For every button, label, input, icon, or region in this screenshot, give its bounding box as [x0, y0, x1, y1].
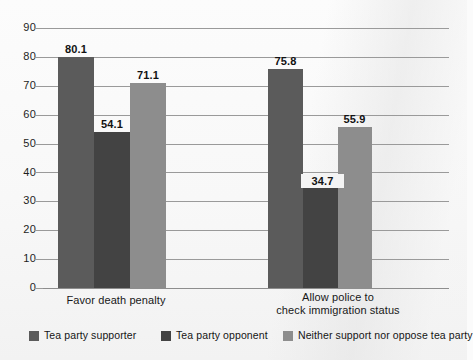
value-label-71-1: 71.1	[126, 69, 170, 81]
value-label-80-1: 80.1	[54, 43, 98, 55]
y-tick-label: 50	[2, 138, 36, 149]
legend-swatch-icon	[283, 331, 293, 341]
bar-favor-death-penalty-tea-party-opponent	[94, 132, 130, 288]
tick-30	[34, 201, 43, 202]
gridline-80	[43, 57, 449, 58]
legend: Tea party supporter Tea party opponent N…	[29, 330, 449, 344]
tick-60	[34, 115, 43, 116]
gridline-60	[43, 115, 449, 116]
tick-80	[34, 57, 43, 58]
legend-label: Tea party supporter	[44, 330, 136, 341]
category-label-line: check immigration status	[258, 304, 418, 317]
legend-item-tea-party-opponent: Tea party opponent	[161, 330, 268, 341]
gridline-0	[43, 288, 449, 289]
gridline-70	[43, 86, 449, 87]
tick-90	[34, 28, 43, 29]
legend-swatch-icon	[161, 331, 171, 341]
bar-allow-police-neither	[338, 127, 372, 289]
y-tick-label: 30	[2, 195, 36, 206]
category-label-line: Favor death penalty	[36, 294, 196, 307]
value-label-34-7: 34.7	[301, 174, 344, 188]
legend-label: Tea party opponent	[176, 330, 268, 341]
legend-item-tea-party-supporter: Tea party supporter	[29, 330, 136, 341]
bar-allow-police-tea-party-supporter	[268, 69, 303, 288]
y-tick-label: 80	[2, 51, 36, 62]
y-tick-label: 70	[2, 80, 36, 91]
tick-10	[34, 259, 43, 260]
tick-20	[34, 230, 43, 231]
gridline-90	[43, 28, 449, 29]
y-tick-label: 10	[2, 253, 36, 264]
tick-70	[34, 86, 43, 87]
category-label-allow-police: Allow police to check immigration status	[258, 291, 418, 317]
y-tick-label: 40	[2, 167, 36, 178]
category-label-favor-death-penalty: Favor death penalty	[36, 294, 196, 307]
y-tick-label: 20	[2, 224, 36, 235]
legend-item-neither: Neither support nor oppose tea party	[283, 330, 473, 341]
bar-allow-police-tea-party-opponent	[303, 188, 338, 288]
value-label-54-1: 54.1	[90, 118, 134, 130]
y-tick-label: 0	[2, 282, 36, 293]
legend-swatch-icon	[29, 331, 39, 341]
y-axis: 90 80 70 60 50 40 30 20 10 0	[0, 28, 36, 288]
legend-label: Neither support nor oppose tea party	[298, 330, 473, 341]
bar-favor-death-penalty-neither	[130, 83, 166, 288]
value-label-55-9: 55.9	[333, 113, 376, 125]
plot-area: 80.1 54.1 71.1 75.8 34.7 55.9	[43, 28, 449, 288]
y-tick-label: 60	[2, 109, 36, 120]
tick-50	[34, 144, 43, 145]
value-label-75-8: 75.8	[264, 55, 307, 67]
category-label-line: Allow police to	[258, 291, 418, 304]
bar-favor-death-penalty-tea-party-supporter	[58, 57, 94, 288]
y-tick-label: 90	[2, 22, 36, 33]
tick-0	[34, 288, 43, 289]
tick-40	[34, 172, 43, 173]
